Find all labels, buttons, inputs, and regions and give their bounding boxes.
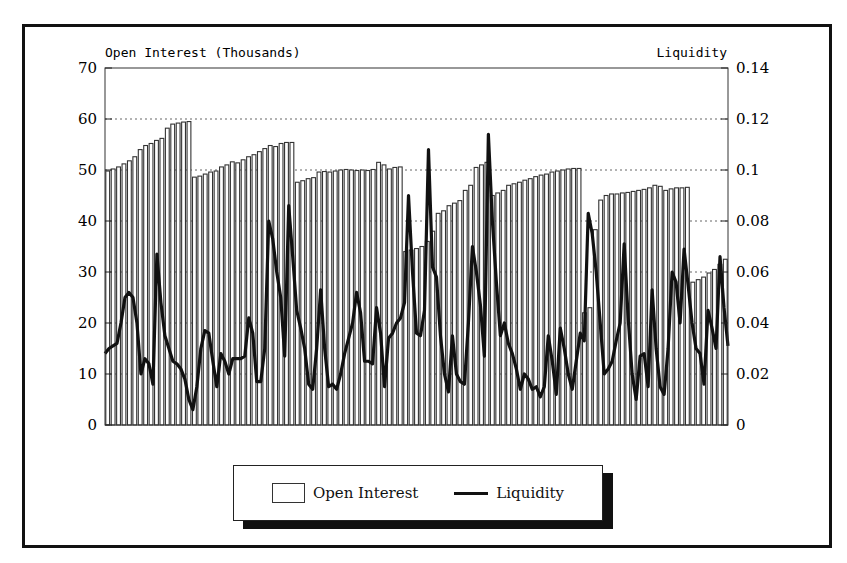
left-tick-label: 20: [78, 314, 97, 332]
open-interest-bar: [176, 123, 180, 425]
open-interest-bar: [512, 184, 516, 425]
open-interest-bar: [117, 167, 121, 425]
open-interest-bar: [604, 196, 608, 426]
line-swatch-icon: [454, 492, 488, 495]
open-interest-bar: [301, 181, 305, 425]
open-interest-bar: [415, 249, 419, 425]
open-interest-bar: [610, 194, 614, 425]
open-interest-bar: [642, 189, 646, 425]
right-tick-label: 0.08: [736, 212, 769, 230]
legend-label-open-interest: Open Interest: [313, 484, 418, 502]
open-interest-bar: [209, 172, 213, 425]
left-tick-label: 0: [87, 416, 97, 434]
right-tick-label: 0.1: [736, 161, 760, 179]
open-interest-bar: [371, 169, 375, 425]
open-interest-bar: [111, 169, 115, 425]
open-interest-bar: [247, 157, 251, 425]
open-interest-bar: [230, 162, 234, 425]
left-tick-label: 10: [78, 365, 97, 383]
open-interest-bar: [198, 176, 202, 425]
open-interest-bar: [257, 152, 261, 425]
legend: Open Interest Liquidity: [233, 465, 603, 521]
open-interest-bar: [393, 167, 397, 425]
open-interest-bar: [122, 164, 126, 425]
left-axis-title: Open Interest (Thousands): [105, 45, 301, 60]
open-interest-bar: [561, 170, 565, 425]
open-interest-bar: [577, 168, 581, 425]
open-interest-bar: [138, 150, 142, 425]
open-interest-bar: [268, 146, 272, 425]
open-interest-bar: [106, 171, 110, 425]
right-tick-label: 0.02: [736, 365, 769, 383]
left-tick-label: 50: [78, 161, 97, 179]
left-tick-label: 40: [78, 212, 97, 230]
right-tick-label: 0.04: [736, 314, 769, 332]
left-tick-label: 70: [78, 59, 97, 77]
open-interest-bar: [366, 171, 370, 425]
right-tick-label: 0.14: [736, 59, 769, 77]
open-interest-bar: [350, 170, 354, 425]
open-interest-bar: [388, 169, 392, 425]
open-interest-bar: [615, 194, 619, 425]
open-interest-bar: [474, 167, 478, 425]
open-interest-bar: [507, 185, 511, 425]
bar-swatch-icon: [272, 483, 305, 503]
open-interest-bar: [225, 165, 229, 425]
open-interest-bar: [133, 157, 137, 425]
open-interest-bar: [458, 201, 462, 425]
open-interest-bar: [274, 147, 278, 425]
open-interest-bar: [588, 308, 592, 425]
open-interest-bar: [171, 124, 175, 425]
open-interest-bar: [241, 160, 245, 425]
right-tick-label: 0.12: [736, 110, 769, 128]
open-interest-bar: [501, 190, 505, 425]
open-interest-bar: [252, 155, 256, 425]
open-interest-bar: [187, 122, 191, 425]
legend-item-liquidity: Liquidity: [454, 484, 564, 502]
open-interest-bar: [323, 172, 327, 425]
open-interest-bar: [550, 172, 554, 425]
open-interest-bar: [203, 174, 207, 425]
open-interest-bar: [442, 211, 446, 425]
open-interest-bar: [360, 170, 364, 425]
left-tick-label: 30: [78, 263, 97, 281]
open-interest-bar: [566, 169, 570, 425]
open-interest-bar: [523, 180, 527, 425]
open-interest-bar: [236, 163, 240, 425]
open-interest-bar: [306, 179, 310, 425]
right-axis-title: Liquidity: [657, 45, 728, 60]
left-tick-label: 60: [78, 110, 97, 128]
right-tick-label: 0: [736, 416, 746, 434]
legend-label-liquidity: Liquidity: [496, 484, 564, 502]
open-interest-bar: [463, 190, 467, 425]
open-interest-bar: [377, 162, 381, 425]
open-interest-bar: [144, 146, 148, 425]
open-interest-bar: [165, 128, 169, 425]
open-interest-bar: [220, 167, 224, 425]
open-interest-bar: [344, 169, 348, 425]
legend-item-open-interest: Open Interest: [272, 483, 418, 503]
open-interest-bar: [339, 170, 343, 425]
open-interest-bar: [707, 273, 711, 425]
right-tick-label: 0.06: [736, 263, 769, 281]
open-interest-bar: [398, 167, 402, 425]
open-interest-bar: [453, 203, 457, 425]
